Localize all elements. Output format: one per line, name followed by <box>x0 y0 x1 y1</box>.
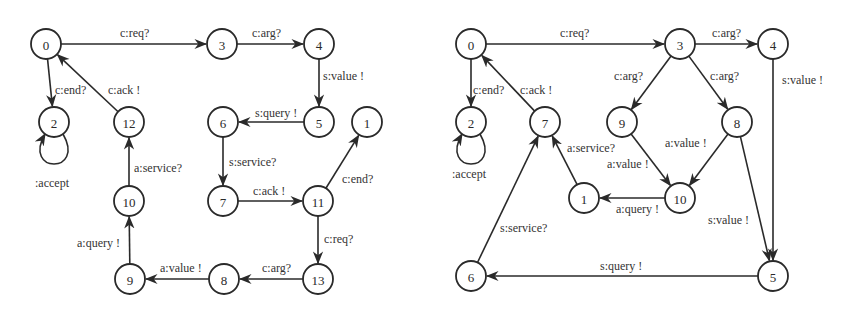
state-id: 8 <box>221 273 228 288</box>
transition-13-to-8: c:arg? <box>240 261 303 279</box>
state-id: 8 <box>734 116 741 131</box>
state-id: 3 <box>219 38 226 53</box>
state-node-10: 10 <box>665 183 695 213</box>
state-id: 5 <box>770 270 777 285</box>
left-automaton: c:req?c:arg?s:value !s:query !s:service?… <box>31 26 382 294</box>
state-id: 12 <box>123 116 136 131</box>
state-id: 3 <box>677 38 684 53</box>
state-id: 10 <box>674 192 687 207</box>
transition-label: c:end? <box>473 83 504 97</box>
state-node-6: 6 <box>208 107 238 137</box>
transition-label: c:arg? <box>262 261 291 275</box>
transition-label: s:service? <box>229 155 276 169</box>
transition-10-to-12: a:service? <box>129 138 182 186</box>
transition-label: a:value ! <box>160 261 202 275</box>
state-id: 2 <box>468 116 475 131</box>
state-node-5: 5 <box>304 107 334 137</box>
transition-label: c:arg? <box>252 26 281 40</box>
state-id: 6 <box>220 116 227 131</box>
state-id: 2 <box>51 116 58 131</box>
transition-3-to-9: c:arg? <box>614 56 671 109</box>
state-id: 0 <box>43 38 50 53</box>
transition-0-to-2: c:end? <box>48 59 87 106</box>
state-node-13: 13 <box>303 264 333 294</box>
state-node-0: 0 <box>31 29 61 59</box>
transition-0-to-3: c:req? <box>61 26 206 44</box>
transition-11-to-1: c:end? <box>326 136 373 189</box>
transition-label: a:service? <box>134 161 182 175</box>
state-id: 11 <box>312 195 325 210</box>
state-node-10: 10 <box>114 186 144 216</box>
transition-4-to-5: s:value ! <box>319 59 364 106</box>
transition-label: c:req? <box>560 26 589 40</box>
state-node-1: 1 <box>352 107 382 137</box>
transition-4-to-5: s:value ! <box>773 59 823 260</box>
state-node-3: 3 <box>207 29 237 59</box>
self-loop-label: :accept <box>452 167 487 181</box>
state-node-4: 4 <box>304 29 334 59</box>
state-id: 1 <box>364 116 371 131</box>
transition-11-to-13: c:req? <box>318 216 353 263</box>
transition-label: s:value ! <box>323 69 364 83</box>
transition-6-to-7: s:service? <box>223 137 276 185</box>
state-node-9: 9 <box>115 264 145 294</box>
transition-label: c:arg? <box>614 69 643 83</box>
transition-8-to-5: s:value ! <box>708 137 769 261</box>
state-id: 0 <box>468 38 475 53</box>
transition-label: a:query ! <box>616 202 659 216</box>
transition-3-to-4: c:arg? <box>695 26 757 44</box>
transition-10-to-1: a:query ! <box>600 198 665 216</box>
state-node-7: 7 <box>530 107 560 137</box>
state-id: 7 <box>220 195 227 210</box>
self-loop-accept: :accept <box>452 134 487 181</box>
transition-label: c:ack ! <box>108 83 140 97</box>
transition-5-to-6: s:query ! <box>239 106 304 122</box>
transition-label: a:service? <box>567 141 615 155</box>
state-node-12: 12 <box>114 107 144 137</box>
transition-6-to-7: s:service? <box>477 136 547 262</box>
state-id: 6 <box>468 270 475 285</box>
state-node-8: 8 <box>209 264 239 294</box>
transition-0-to-3: c:req? <box>486 26 664 44</box>
state-node-9: 9 <box>607 107 637 137</box>
transition-7-to-11: c:ack ! <box>238 184 302 201</box>
transition-label: s:query ! <box>255 106 297 120</box>
transition-label: s:query ! <box>600 259 642 273</box>
transition-label: c:end? <box>55 83 86 97</box>
state-node-5: 5 <box>758 261 788 291</box>
state-node-1: 1 <box>569 183 599 213</box>
transition-label: c:arg? <box>712 26 741 40</box>
state-node-6: 6 <box>456 261 486 291</box>
transition-9-to-10: a:value ! <box>607 134 670 185</box>
transition-1-to-7: a:service? <box>552 136 615 184</box>
state-node-2: 2 <box>456 107 486 137</box>
state-node-7: 7 <box>208 186 238 216</box>
state-id: 10 <box>123 195 136 210</box>
state-id: 1 <box>581 192 588 207</box>
transition-5-to-6: s:query ! <box>487 259 758 276</box>
transition-label: a:value ! <box>665 136 707 150</box>
state-node-4: 4 <box>758 29 788 59</box>
transition-label: s:service? <box>500 221 547 235</box>
transition-label: s:value ! <box>708 213 749 227</box>
transition-3-to-4: c:arg? <box>237 26 303 44</box>
state-id: 9 <box>127 273 134 288</box>
transition-9-to-10: a:query ! <box>77 217 130 264</box>
transition-label: s:value ! <box>782 73 823 87</box>
state-id: 7 <box>542 116 549 131</box>
state-id: 9 <box>619 116 626 131</box>
transition-label: c:req? <box>120 26 149 40</box>
self-loop-accept: :accept <box>35 134 70 190</box>
state-id: 4 <box>316 38 323 53</box>
state-node-3: 3 <box>665 29 695 59</box>
transition-label: a:query ! <box>77 236 120 250</box>
transition-3-to-8: c:arg? <box>689 56 739 109</box>
transition-8-to-10: a:value ! <box>665 134 728 185</box>
transition-label: c:ack ! <box>253 184 285 198</box>
self-loop-label: :accept <box>35 176 70 190</box>
transition-label: c:req? <box>324 232 353 246</box>
state-node-8: 8 <box>722 107 752 137</box>
automata-diagrams: c:req?c:arg?s:value !s:query !s:service?… <box>0 0 853 314</box>
transition-label: c:arg? <box>710 69 739 83</box>
transition-0-to-2: c:end? <box>471 59 504 106</box>
